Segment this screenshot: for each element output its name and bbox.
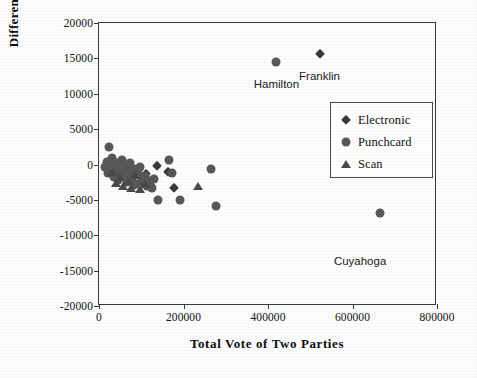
data-point-circle-marker bbox=[176, 196, 185, 205]
y-tick-mark bbox=[94, 235, 99, 236]
legend-label: Scan bbox=[358, 157, 383, 172]
y-tick-label: 20000 bbox=[64, 17, 93, 29]
legend-item-punchcard[interactable]: Punchcard bbox=[338, 131, 432, 153]
legend-label: Punchcard bbox=[358, 135, 412, 150]
data-point-circle-marker bbox=[272, 57, 281, 66]
legend-label: Electronic bbox=[358, 113, 410, 128]
x-tick-label: 200000 bbox=[166, 311, 201, 323]
data-point-triangle-marker bbox=[130, 171, 140, 179]
data-point-diamond-marker bbox=[169, 183, 179, 193]
data-point-diamond-marker bbox=[152, 161, 162, 171]
x-tick-label: 800000 bbox=[419, 311, 454, 323]
data-point-triangle-marker bbox=[341, 160, 351, 168]
annotation-label: Franklin bbox=[299, 70, 340, 82]
data-point-diamond-marker bbox=[341, 115, 351, 125]
y-tick-label: -10000 bbox=[60, 229, 93, 241]
y-tick-label: 15000 bbox=[64, 52, 93, 64]
scatter-chart-figure: Difference 20000150001000050000-5000-100… bbox=[0, 0, 477, 378]
y-tick-mark bbox=[94, 200, 99, 201]
chart-legend: ElectronicPunchcardScan bbox=[330, 102, 433, 178]
data-point-circle-marker bbox=[164, 156, 173, 165]
y-tick-mark bbox=[94, 129, 99, 130]
legend-item-scan[interactable]: Scan bbox=[338, 153, 432, 175]
y-tick-mark bbox=[94, 58, 99, 59]
y-tick-label: -20000 bbox=[60, 300, 93, 312]
y-tick-mark bbox=[94, 165, 99, 166]
x-tick-mark bbox=[268, 304, 269, 309]
y-axis-title: Difference bbox=[6, 0, 22, 92]
legend-swatch-circle-icon bbox=[338, 134, 354, 150]
data-point-circle-marker bbox=[342, 138, 351, 147]
legend-item-electronic[interactable]: Electronic bbox=[338, 109, 432, 131]
y-tick-label: -5000 bbox=[66, 194, 93, 206]
x-tick-mark bbox=[353, 304, 354, 309]
x-tick-label: 0 bbox=[96, 311, 102, 323]
x-tick-mark bbox=[99, 304, 100, 309]
y-tick-label: 5000 bbox=[70, 123, 93, 135]
legend-swatch-diamond-icon bbox=[338, 112, 354, 128]
legend-swatch-triangle-icon bbox=[338, 156, 354, 172]
y-tick-label: -15000 bbox=[60, 265, 93, 277]
x-tick-label: 600000 bbox=[335, 311, 370, 323]
x-axis-title: Total Vote of Two Parties bbox=[98, 336, 436, 352]
annotation-label: Hamilton bbox=[254, 78, 299, 90]
data-point-diamond-marker bbox=[314, 49, 324, 59]
data-point-triangle-marker bbox=[140, 180, 150, 188]
y-tick-label: 0 bbox=[87, 159, 93, 171]
data-point-circle-marker bbox=[211, 202, 220, 211]
x-tick-mark bbox=[437, 304, 438, 309]
data-point-circle-marker bbox=[154, 195, 163, 204]
y-tick-mark bbox=[94, 271, 99, 272]
data-point-circle-marker bbox=[207, 165, 216, 174]
x-tick-mark bbox=[184, 304, 185, 309]
data-point-triangle-marker bbox=[193, 182, 203, 190]
data-point-circle-marker bbox=[375, 208, 384, 217]
y-tick-mark bbox=[94, 23, 99, 24]
data-point-circle-marker bbox=[105, 143, 114, 152]
x-tick-label: 400000 bbox=[250, 311, 285, 323]
annotation-label: Cuyahoga bbox=[334, 255, 386, 267]
y-tick-mark bbox=[94, 94, 99, 95]
data-point-circle-marker bbox=[150, 174, 159, 183]
data-point-circle-marker bbox=[167, 169, 176, 178]
y-tick-label: 10000 bbox=[64, 88, 93, 100]
